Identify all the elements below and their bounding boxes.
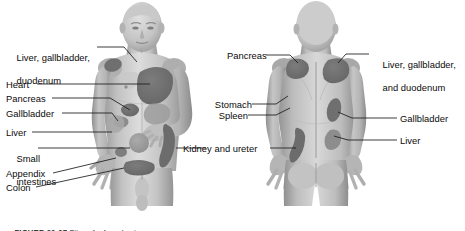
figure-caption: FIGURE 22-27 Sites of referred pain. bbox=[6, 219, 142, 231]
figure-caption-label: FIGURE 22-27 bbox=[14, 228, 67, 231]
label-liver-back: Liver bbox=[400, 135, 420, 146]
label-liver-gallbladder-duodenum-back: Liver, gallbladder, and duodenum bbox=[372, 48, 456, 104]
label-heart: Heart bbox=[6, 79, 29, 90]
label-appendix: Appendix bbox=[6, 168, 45, 179]
appendix-region bbox=[115, 147, 127, 157]
label-pancreas: Pancreas bbox=[6, 93, 46, 104]
label-colon: Colon bbox=[6, 182, 31, 193]
figure-container: Liver, gallbladder, duodenum Heart Pancr… bbox=[0, 0, 465, 231]
label-stomach: Stomach bbox=[182, 99, 252, 110]
label-liver: Liver bbox=[6, 127, 26, 138]
small-intestines-region bbox=[129, 133, 149, 153]
label-kidney-and-ureter: Kidney and ureter bbox=[183, 143, 257, 154]
label-gallbladder: Gallbladder bbox=[6, 108, 54, 119]
label-line-2: and duodenum bbox=[383, 82, 446, 93]
label-pancreas-back: Pancreas bbox=[227, 50, 267, 61]
label-gallbladder-back: Gallbladder bbox=[400, 113, 448, 124]
label-spleen: Spleen bbox=[182, 110, 248, 121]
label-line-1: Liver, gallbladder, bbox=[17, 52, 90, 63]
colon-region bbox=[124, 160, 155, 176]
label-line-1: Small bbox=[17, 153, 41, 164]
label-line-1: Liver, gallbladder, bbox=[383, 59, 456, 70]
figure-caption-text: Sites of referred pain. bbox=[69, 228, 142, 231]
